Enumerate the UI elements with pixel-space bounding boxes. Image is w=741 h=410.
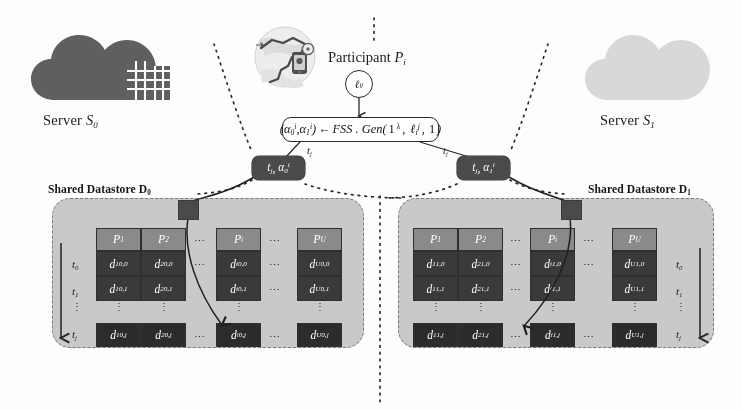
data-cell-d0-u2-t0: d20,0 [141,251,186,276]
data-cell-d0-u2-t1-sub: 0,1 [164,285,173,293]
col-vellipsis-d0-3: ⋮ [233,305,245,308]
col-vellipsis-d1-2: ⋮ [475,305,487,308]
server-caption-s0-prefix: Server [43,112,86,128]
col-ellipsis-d1-a-t1: ⋯ [510,285,522,296]
row-label-d1-tj-sub: j [679,334,681,341]
gen-arg2: ℓij [410,122,419,137]
edge-label-tj-left-sub: j [310,150,312,157]
col-vellipsis-d1-2-glyph: ⋮ [476,301,486,312]
col-ellipsis-d1-a-head: ⋯ [510,236,522,247]
header-cell-d1-p1-base: P [430,232,437,247]
col-ellipsis-d1-b-tj-glyph: ⋯ [583,331,595,343]
data-cell-d0-ui-tj: di0,j [216,323,261,347]
header-cell-d0-p1: P1 [96,228,141,251]
data-cell-d1-u1-tj: d11,j [413,323,458,347]
col-ellipsis-d0-a-head-glyph: ⋯ [194,235,206,247]
data-cell-d0-u2-tj: d20,j [141,323,186,347]
header-cell-d1-p2-sub: 2 [482,235,486,244]
header-cell-d1-pi-sub: i [555,235,557,244]
col-ellipsis-d1-b-head: ⋯ [583,236,595,247]
datastore-caption-d1: Shared Datastore D1 [588,184,691,197]
share-right-value: α1i [483,161,495,175]
edge-label-tj-right: tj [443,146,448,157]
datastore-caption-d0-text: Shared Datastore D [48,183,147,196]
header-cell-d0-pi-sub: i [241,235,243,244]
col-ellipsis-d0-b-t0-glyph: ⋯ [269,259,281,271]
data-cell-d1-uU-t1-sub: 1,1 [636,285,645,293]
server-caption-s0: Server S0 [43,113,98,130]
data-cell-d0-uU-t0-sub: 0,0 [321,260,330,268]
header-cell-d1-pi: Pi [530,228,575,251]
row-label-d0-t1-sub: 1 [75,291,78,298]
figure-canvas: Server S0 Server S1 Participant Pi ℓij (… [0,0,741,410]
col-ellipsis-d1-a-head-glyph: ⋯ [510,235,522,247]
col-ellipsis-d0-b-tj-glyph: ⋯ [269,331,281,343]
col-ellipsis-d1-a-tj: ⋯ [510,332,522,343]
gen-args-close: ) [437,122,441,137]
fss-gen-formula-box: (α0i, α1i)←FSS . Gen(1λ, ℓij,1) [282,117,439,142]
col-vellipsis-d0-4: ⋮ [314,305,326,308]
col-ellipsis-d0-b-head: ⋯ [269,236,281,247]
data-cell-d0-u1-t1: d10,1 [96,276,141,301]
connector-square-left [178,200,199,220]
data-cell-d0-uU-t1-sub: 0,1 [321,285,330,293]
data-cell-d1-uU-t0-sub: 1,0 [636,260,645,268]
row-label-d0-tj: tj [72,328,77,341]
col-ellipsis-d0-a-tj: ⋯ [194,332,206,343]
col-vellipsis-d1-4: ⋮ [629,305,641,308]
participant-caption-var: P [394,49,403,65]
datastore-caption-d1-sub: 1 [687,189,691,197]
col-vellipsis-d0-2-glyph: ⋮ [159,301,169,312]
row-label-d1-t0-sub: 0 [679,264,682,271]
col-ellipsis-d1-b-t0: ⋯ [583,260,595,271]
row-label-d1-tj: tj [676,328,681,341]
header-cell-d0-p1-base: P [113,232,120,247]
data-cell-d1-u1-tj-sub: 1,j [436,331,443,339]
gen-arg-sep-2: , [420,122,427,137]
header-cell-d1-pu: PU [612,228,657,251]
data-cell-d0-ui-t0: di0,0 [216,251,261,276]
dashed-link-right-lower [510,180,566,194]
data-cell-d0-ui-tj-sub: 0,j [239,331,246,339]
participant-caption-prefix: Participant [328,49,394,65]
header-cell-d0-pu-sub: U [320,235,325,244]
col-ellipsis-d1-b-tj: ⋯ [583,332,595,343]
data-cell-d1-u2-t0-sub: 1,0 [481,260,490,268]
data-cell-d0-uU-t0: dU0,0 [297,251,342,276]
row-label-d0-tj-sub: j [75,334,77,341]
datastore-caption-d0-sub: 0 [147,189,151,197]
dashed-link-right-to-left [386,184,457,198]
col-ellipsis-d1-a-t0: ⋯ [510,260,522,271]
row-ellipsis-d0-glyph: ⋮ [72,301,82,312]
datastore-caption-d1-text: Shared Datastore D [588,183,687,196]
col-vellipsis-d0-3-glyph: ⋮ [234,301,244,312]
col-ellipsis-d0-a-head: ⋯ [194,236,206,247]
data-cell-d0-uU-tj-sub: 0,j [321,331,328,339]
header-cell-d0-pi-base: P [234,232,241,247]
col-ellipsis-d1-a-tj-glyph: ⋯ [510,331,522,343]
server-caption-s1: Server S1 [600,113,655,130]
data-cell-d0-u2-t1: d20,1 [141,276,186,301]
row-label-d1-t1: t1 [676,285,682,298]
data-cell-d1-ui-tj: di1,j [530,323,575,347]
datastore-caption-d0: Shared Datastore D0 [48,184,151,197]
data-cell-d1-uU-t0: dU1,0 [612,251,657,276]
data-cell-d0-uU-t1: dU0,1 [297,276,342,301]
col-vellipsis-d1-4-glyph: ⋮ [630,301,640,312]
share-left-value: α0i [278,161,290,175]
data-cell-d1-ui-tj-sub: 1,j [553,331,560,339]
data-cell-d1-u1-t1-sub: 1,1 [436,285,445,293]
col-vellipsis-d0-1-glyph: ⋮ [114,301,124,312]
row-label-d1-t0: t0 [676,258,682,271]
col-ellipsis-d0-a-t0-glyph: ⋯ [194,259,206,271]
server-caption-s0-sub: 0 [93,120,98,130]
data-cell-d0-u1-t1-sub: 0,1 [119,285,128,293]
col-vellipsis-d1-1-glyph: ⋮ [431,301,441,312]
header-cell-d0-p1-sub: 1 [120,235,124,244]
secret-value-sup: j [361,81,363,88]
edge-label-tj-right-sub: j [446,150,448,157]
secret-value-node: ℓij [345,70,373,98]
share-left-value-sup: i [288,161,290,169]
share-node-right: tj, α1i [457,156,510,180]
row-label-d0-t0-sub: 0 [75,264,78,271]
